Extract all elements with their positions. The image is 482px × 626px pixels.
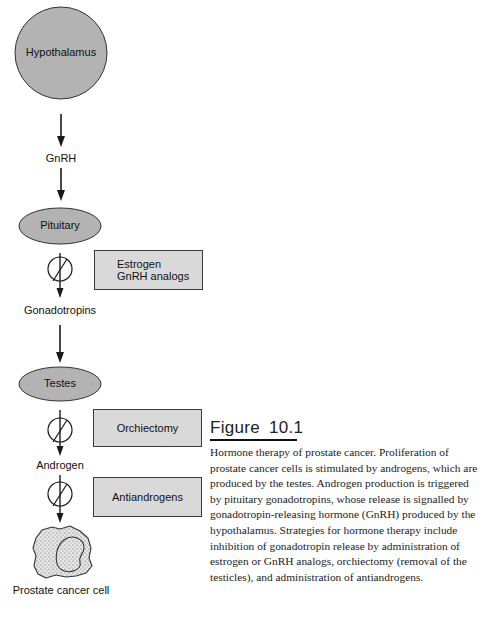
figure-number: 10.1	[269, 418, 303, 437]
orchiectomy-box: Orchiectomy	[93, 409, 202, 447]
cancer-cell-icon	[33, 526, 92, 578]
estrogen-label: Estrogen	[117, 258, 202, 270]
testes-label: Testes	[19, 377, 101, 389]
estrogen-gnrh-analogs-box: Estrogen GnRH analogs	[94, 250, 203, 290]
gnrh-analogs-label: GnRH analogs	[117, 270, 202, 282]
figure-caption: Hormone therapy of prostate cancer. Prol…	[210, 445, 478, 585]
arrow-icon	[57, 114, 65, 147]
orchiectomy-label: Orchiectomy	[117, 422, 179, 434]
hypothalamus-label: Hypothalamus	[15, 46, 107, 58]
figure-title: Figure10.1	[210, 418, 297, 441]
inhibition-icon	[48, 410, 72, 456]
prostate-cancer-cell-label: Prostate cancer cell	[0, 584, 122, 596]
gonadotropins-label: Gonadotropins	[0, 304, 120, 316]
inhibition-icon	[48, 253, 72, 298]
antiandrogens-box: Antiandrogens	[93, 477, 202, 517]
antiandrogens-label: Antiandrogens	[112, 491, 183, 503]
figure-label: Figure	[210, 418, 260, 437]
arrow-icon	[56, 325, 64, 363]
inhibition-icon	[48, 475, 72, 523]
gnrh-label: GnRH	[1, 152, 121, 164]
arrow-icon	[57, 168, 65, 201]
androgen-label: Androgen	[0, 459, 120, 471]
pituitary-label: Pituitary	[19, 219, 101, 231]
